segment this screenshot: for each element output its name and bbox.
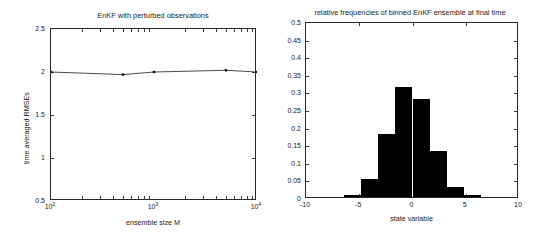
left-ytick-label: 1 [27,154,45,161]
right-xtick-label: -10 [293,201,317,208]
histogram-bar [413,99,430,197]
right-x-axis-label: state variable [305,214,518,223]
histogram-bar [464,195,481,197]
right-ytick-label: 0.25 [279,107,301,114]
left-ytick-label: 2 [27,68,45,75]
right-ytick-label: 0.15 [279,142,301,149]
histogram-bar [447,187,464,197]
left-axes-frame [50,28,256,200]
right-axes-frame [305,22,518,198]
right-ytick-label: 0.1 [279,160,301,167]
right-ytick-label: 0.5 [279,19,301,26]
right-xtick-label: 10 [506,201,530,208]
left-ytick-label: 2.5 [27,25,45,32]
right-panel: relative frequencies of binned EnKF ense… [270,0,540,237]
right-ytick-label: 0.35 [279,72,301,79]
right-ytick-label: 0.45 [279,37,301,44]
right-ytick-label: 0.05 [279,177,301,184]
right-ytick-label: 0.3 [279,89,301,96]
left-ytick-label: 1.5 [27,111,45,118]
left-xtick-label: 104 [244,203,268,210]
histogram-bar [378,134,395,197]
left-panel: EnKF with perturbed observations time av… [0,0,270,237]
right-ytick-label: 0.4 [279,54,301,61]
right-ytick-label: 0.2 [279,125,301,132]
right-xtick-label: -5 [346,201,370,208]
histogram-bar [344,195,361,197]
left-x-axis-label: ensemble size M [50,218,256,227]
right-xtick-label: 5 [453,201,477,208]
left-xtick-label: 103 [141,203,165,210]
left-xtick-label: 102 [38,203,62,210]
right-plot-title: relative frequencies of binned EnKF ense… [290,8,530,17]
left-plot-title: EnKF with perturbed observations [50,11,256,20]
histogram-bar [361,179,378,197]
figure-canvas: EnKF with perturbed observations time av… [0,0,540,237]
right-xtick-label: 0 [400,201,424,208]
histogram-bar [430,151,447,197]
left-line-series [51,29,257,201]
histogram-bar [395,87,412,197]
